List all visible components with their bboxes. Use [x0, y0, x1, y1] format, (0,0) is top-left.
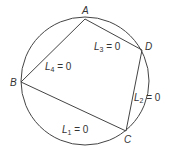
cyclic-quadrilateral-diagram: A B C D L1 = 0 L2 = 0 L3 = 0 L4 = 0 [0, 0, 172, 150]
side-label-l4: L4 = 0 [45, 61, 72, 73]
vertex-label-a: A [81, 5, 89, 16]
vertex-label-d: D [145, 41, 152, 52]
side-label-l3: L3 = 0 [94, 41, 121, 53]
side-label-l2: L2 = 0 [134, 92, 161, 104]
side-label-l1: L1 = 0 [62, 124, 89, 136]
vertex-label-b: B [10, 77, 17, 88]
vertex-label-c: C [124, 134, 132, 145]
